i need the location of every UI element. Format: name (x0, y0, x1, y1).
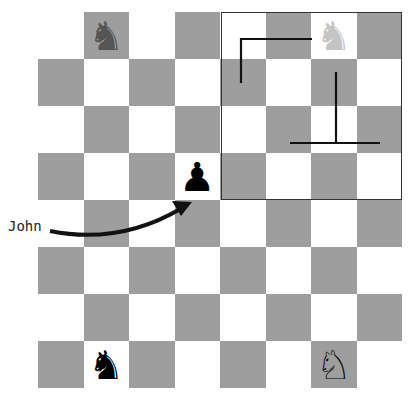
knight-move-paths (241, 39, 380, 143)
john-label: John (8, 218, 42, 234)
move-path-overlay (0, 0, 410, 397)
arrow-line (50, 208, 182, 235)
l-path-left (241, 39, 312, 83)
